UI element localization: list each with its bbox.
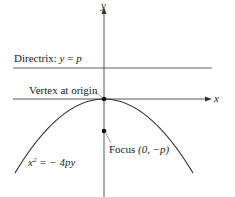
parabola-diagram: y x Directrix: y = p Vertex at origin Fo… (0, 0, 235, 197)
equation-label: x2 = − 4py (27, 156, 75, 168)
focus-label: Focus (0, −p) (109, 143, 170, 156)
x-axis-arrow-icon (205, 97, 212, 102)
vertex-label: Vertex at origin (29, 84, 98, 96)
y-axis-label: y (100, 0, 106, 11)
directrix-label: Directrix: y = p (14, 52, 82, 64)
focus-leader-line (105, 132, 111, 143)
x-axis-label: x (213, 92, 219, 104)
